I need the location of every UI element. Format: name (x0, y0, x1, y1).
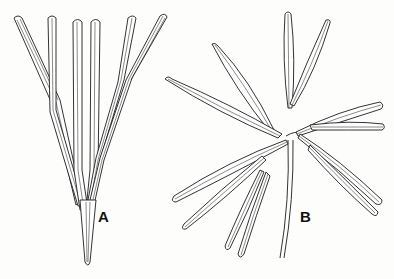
botanical-figure: A B (0, 0, 394, 279)
leaf-a (14, 14, 167, 265)
leaf-illustrations (0, 0, 394, 279)
panel-label-b: B (300, 208, 311, 225)
panel-label-a: A (98, 208, 109, 225)
leaf-b (165, 12, 384, 258)
